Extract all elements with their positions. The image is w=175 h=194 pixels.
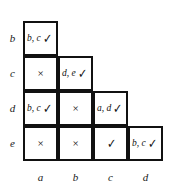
cell-c-a[interactable]: × [23, 56, 58, 91]
cell-d-a-content: b, c ✓ [25, 102, 56, 115]
cell-e-d[interactable]: b, c ✓ [128, 126, 163, 161]
cell-d-b[interactable]: × [58, 91, 93, 126]
cross-icon: × [72, 138, 78, 149]
cross-icon: × [72, 103, 78, 114]
staircase-table-figure: b c d e b, c ✓ × d, e ✓ b, c ✓ × a, d [0, 0, 175, 194]
cell-e-b-content: × [60, 138, 91, 149]
check-icon: ✓ [148, 137, 157, 150]
cell-e-a-content: × [25, 138, 56, 149]
cell-e-c[interactable]: ✓ [93, 126, 128, 161]
cell-e-b[interactable]: × [58, 126, 93, 161]
row-label-b: b [4, 21, 21, 56]
cell-e-d-content: b, c ✓ [130, 137, 161, 150]
check-icon: ✓ [106, 137, 115, 150]
check-icon: ✓ [113, 102, 122, 115]
cell-c-b-content: d, e ✓ [60, 67, 91, 80]
cell-c-b[interactable]: d, e ✓ [58, 56, 93, 91]
cell-d-c[interactable]: a, d ✓ [93, 91, 128, 126]
cell-d-a[interactable]: b, c ✓ [23, 91, 58, 126]
cross-icon: × [37, 138, 43, 149]
cell-b-a-content: b, c ✓ [25, 32, 56, 45]
row-label-e: e [4, 126, 21, 161]
cell-d-c-content: a, d ✓ [95, 102, 126, 115]
cell-e-c-content: ✓ [95, 137, 126, 150]
cell-c-b-text: d, e [62, 69, 76, 79]
col-label-c: c [93, 167, 128, 187]
cell-e-d-text: b, c [132, 139, 146, 149]
cell-b-a[interactable]: b, c ✓ [23, 21, 58, 56]
col-label-b: b [58, 167, 93, 187]
check-icon: ✓ [43, 32, 52, 45]
cell-d-a-text: b, c [27, 104, 41, 114]
check-icon: ✓ [78, 67, 87, 80]
col-label-d: d [128, 167, 163, 187]
row-label-d: d [4, 91, 21, 126]
row-label-c: c [4, 56, 21, 91]
cross-icon: × [37, 68, 43, 79]
cell-b-a-text: b, c [27, 34, 41, 44]
cell-d-b-content: × [60, 103, 91, 114]
cell-d-c-text: a, d [97, 104, 111, 114]
cell-c-a-content: × [25, 68, 56, 79]
col-label-a: a [23, 167, 58, 187]
check-icon: ✓ [43, 102, 52, 115]
cell-e-a[interactable]: × [23, 126, 58, 161]
